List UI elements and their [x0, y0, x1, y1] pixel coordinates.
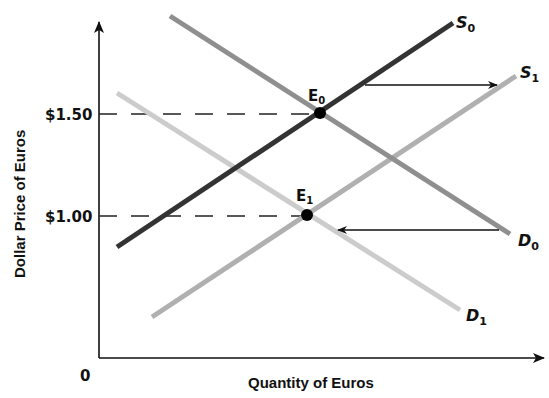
curve-label-d1: D1 [466, 306, 487, 328]
equilibrium-label-e0: E0 [308, 87, 325, 106]
equilibrium-label-e1: E1 [296, 187, 313, 206]
supply-curve-s1 [152, 76, 516, 317]
equilibrium-point-e0 [314, 107, 326, 119]
equilibrium-point-e1 [301, 209, 313, 221]
demand-curve-d0 [170, 16, 510, 234]
y-tick-label-150: $1.50 [45, 106, 92, 124]
curve-label-s1: S1 [520, 63, 539, 85]
curve-label-d0: D0 [518, 231, 539, 253]
y-tick-label-100: $1.00 [45, 208, 92, 226]
supply-demand-chart: $1.50 $1.00 0 Quantity of Euros Dollar P… [0, 0, 549, 398]
demand-curve-d1 [117, 93, 460, 310]
y-axis-title: Dollar Price of Euros [11, 130, 28, 278]
x-axis-title: Quantity of Euros [248, 374, 374, 391]
supply-curve-s0 [117, 23, 453, 247]
curve-label-s0: S0 [456, 13, 476, 35]
origin-label: 0 [80, 367, 90, 385]
